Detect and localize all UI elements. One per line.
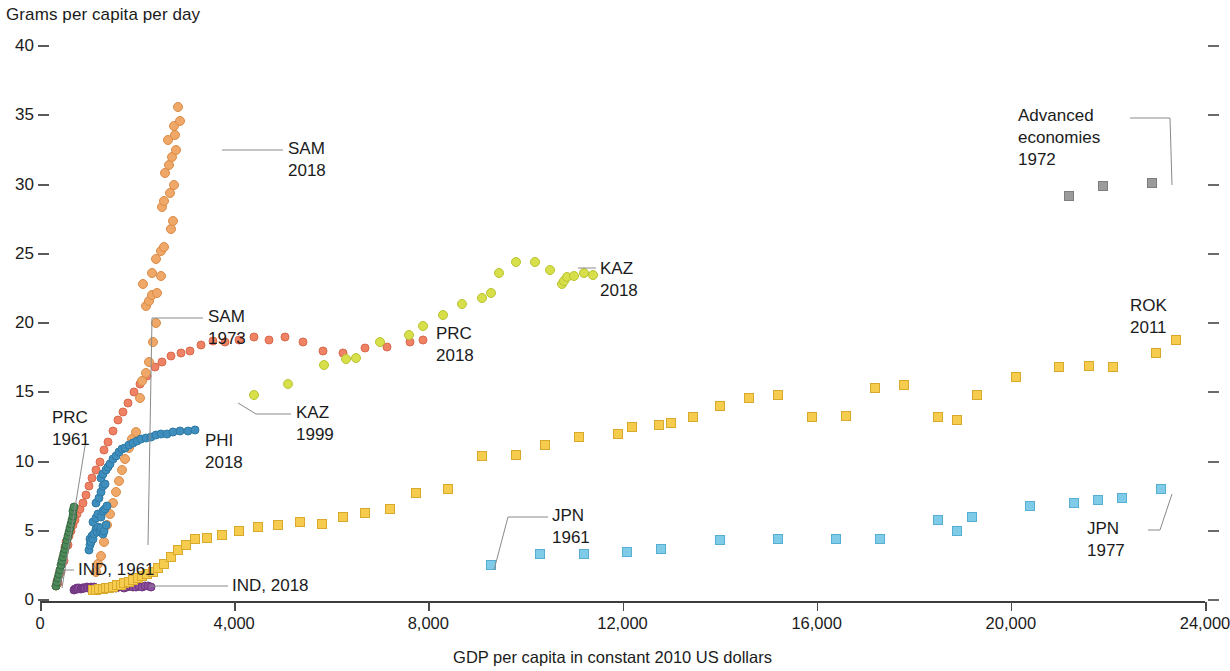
data-point-rok (385, 504, 395, 514)
data-point-rok (654, 420, 664, 430)
y-tick-mark-right (1208, 45, 1219, 47)
data-point-rok (234, 526, 244, 536)
data-point-sam (175, 116, 185, 126)
annotation-ind-2018: IND, 2018 (232, 575, 309, 597)
data-point-rok (972, 390, 982, 400)
data-point-rok (443, 484, 453, 494)
x-axis-title: GDP per capita in constant 2010 US dolla… (0, 648, 1225, 667)
data-point-rok (1011, 372, 1021, 382)
data-point-jpn (1069, 498, 1079, 508)
x-tick-mark (1205, 602, 1207, 611)
data-point-jpn (535, 549, 545, 559)
data-point-jpn (486, 560, 496, 570)
x-tick-label: 0 (35, 614, 44, 633)
data-point-rok (295, 517, 305, 527)
data-point-sam (114, 476, 124, 486)
y-tick-mark-right (1208, 461, 1219, 463)
data-point-rok (1151, 348, 1161, 358)
data-point-phi (191, 425, 200, 434)
data-point-ind (146, 582, 155, 591)
annotation-jpn-1977: JPN 1977 (1087, 518, 1125, 562)
data-point-kaz (486, 288, 496, 298)
data-point-jpn (1156, 484, 1166, 494)
y-tick-mark (38, 530, 49, 532)
data-point-sam (141, 368, 151, 378)
y-tick-mark (38, 114, 49, 116)
data-point-kaz (404, 330, 414, 340)
data-point-sam (135, 393, 145, 403)
data-point-kaz (545, 265, 555, 275)
y-tick-label: 20 (0, 313, 34, 333)
data-point-rok (613, 429, 623, 439)
data-point-rok (1108, 362, 1118, 372)
data-point-kaz (477, 293, 487, 303)
data-point-jpn (579, 549, 589, 559)
data-point-kaz (438, 310, 448, 320)
annotation-kaz-1999: KAZ 1999 (296, 402, 334, 446)
data-point-rok (715, 401, 725, 411)
leader-line (238, 403, 291, 414)
data-point-jpn (1025, 501, 1035, 511)
data-point-rok (360, 508, 370, 518)
data-point-rok (627, 422, 637, 432)
data-point-rok (217, 530, 227, 540)
data-point-prc (118, 407, 127, 416)
data-point-kaz (569, 271, 579, 281)
data-point-rok (574, 432, 584, 442)
data-point-jpn (875, 534, 885, 544)
y-tick-mark-right (1208, 391, 1219, 393)
y-tick-mark (38, 391, 49, 393)
data-point-prc (176, 349, 185, 358)
x-tick-mark (40, 602, 42, 611)
data-point-sam (168, 216, 178, 226)
data-point-prc (158, 357, 167, 366)
data-point-jpn (1093, 495, 1103, 505)
data-point-rok (338, 512, 348, 522)
data-point-jpn (622, 547, 632, 557)
y-tick-label: 40 (0, 36, 34, 56)
data-point-jpn (967, 512, 977, 522)
data-point-prc (419, 335, 428, 344)
data-point-rok (773, 390, 783, 400)
data-point-prc (81, 490, 90, 499)
data-point-jpn (933, 515, 943, 525)
y-tick-mark-right (1208, 599, 1219, 601)
data-point-sam (148, 337, 158, 347)
data-point-prc (318, 346, 327, 355)
data-point-jpn (773, 534, 783, 544)
y-tick-mark (38, 322, 49, 324)
data-point-rok (1054, 362, 1064, 372)
data-point-kaz (579, 268, 589, 278)
data-point-sam (147, 268, 157, 278)
data-point-kaz (341, 354, 351, 364)
data-point-kaz (530, 257, 540, 267)
data-point-kaz (494, 268, 504, 278)
data-point-rok (666, 418, 676, 428)
annotation-prc-1961: PRC 1961 (52, 407, 90, 451)
x-tick-label: 20,000 (986, 614, 1036, 633)
data-point-rok (190, 534, 200, 544)
y-tick-mark-right (1208, 184, 1219, 186)
y-tick-mark-right (1208, 114, 1219, 116)
data-point-sam (117, 465, 127, 475)
annotation-sam-2018: SAM 2018 (288, 138, 326, 182)
data-point-jpn (715, 535, 725, 545)
data-point-kaz (375, 337, 385, 347)
y-tick-label: 0 (0, 590, 34, 610)
data-point-rok (1084, 361, 1094, 371)
data-point-prc (113, 415, 122, 424)
data-point-sam (171, 145, 181, 155)
data-point-rok (807, 412, 817, 422)
data-point-kaz (249, 390, 259, 400)
x-tick-mark (234, 602, 236, 611)
data-point-prc (281, 332, 290, 341)
data-point-prc (361, 343, 370, 352)
data-point-sam (99, 537, 109, 547)
annotation-phi-2018: PHI 2018 (205, 430, 243, 474)
data-point-vie (70, 503, 79, 512)
x-tick-mark (817, 602, 819, 611)
annotation-rok-2011: ROK 2011 (1130, 295, 1167, 339)
y-tick-label: 15 (0, 382, 34, 402)
data-point-prc (87, 474, 96, 483)
